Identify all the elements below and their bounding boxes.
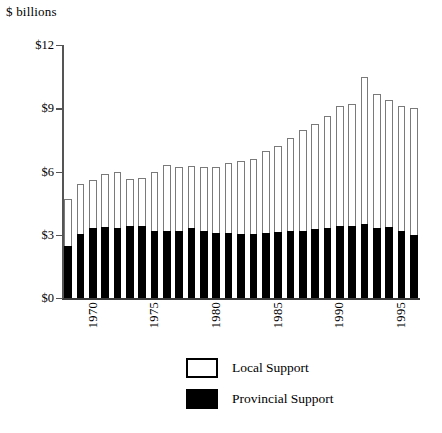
bar-1983: [237, 161, 245, 298]
bar-segment-provincial: [101, 227, 109, 298]
bar-1984: [250, 159, 258, 298]
legend-label-provincial: Provincial Support: [232, 391, 334, 407]
bar-segment-provincial: [89, 228, 97, 298]
bar-1979: [188, 166, 196, 298]
bar-1982: [225, 163, 233, 298]
bar-1995: [385, 100, 393, 298]
bar-segment-provincial: [250, 234, 258, 298]
bar-series-layer: [62, 45, 420, 298]
bar-1980: [200, 167, 208, 298]
bar-1986: [274, 146, 282, 298]
legend-item-provincial: Provincial Support: [186, 389, 334, 409]
x-tick-label-1975: 1975: [147, 302, 162, 328]
bar-segment-provincial: [398, 231, 406, 298]
legend-swatch-local-icon: [186, 358, 218, 378]
bar-1978: [175, 167, 183, 298]
bar-segment-provincial: [373, 228, 381, 298]
bar-segment-provincial: [151, 231, 159, 298]
bar-segment-provincial: [212, 233, 220, 298]
bar-1977: [163, 165, 171, 298]
bar-1991: [336, 106, 344, 298]
bar-segment-provincial: [348, 226, 356, 298]
bar-segment-provincial: [299, 231, 307, 298]
bar-segment-provincial: [311, 229, 319, 298]
bar-1997: [410, 108, 418, 298]
bar-segment-provincial: [324, 228, 332, 298]
bar-segment-provincial: [64, 246, 72, 298]
legend-item-local: Local Support: [186, 358, 309, 378]
y-tick-label: $0: [10, 291, 54, 306]
bar-segment-provincial: [287, 231, 295, 298]
bar-segment-provincial: [237, 234, 245, 298]
bar-segment-provincial: [361, 224, 369, 298]
bar-segment-provincial: [175, 231, 183, 298]
legend-label-local: Local Support: [232, 360, 309, 376]
bar-1988: [299, 130, 307, 298]
bar-1987: [287, 138, 295, 298]
x-tick-label-1980: 1980: [209, 302, 224, 328]
bar-1996: [398, 106, 406, 298]
bar-segment-provincial: [126, 226, 134, 298]
legend-swatch-provincial-icon: [186, 389, 218, 409]
x-axis-labels: 197019751980198519901995: [62, 302, 420, 352]
bar-segment-provincial: [410, 235, 418, 298]
y-tick-label: $3: [10, 227, 54, 242]
bar-segment-provincial: [188, 228, 196, 298]
bar-segment-provincial: [262, 233, 270, 298]
y-tick-label: $9: [10, 101, 54, 116]
bar-segment-provincial: [336, 226, 344, 298]
bar-segment-provincial: [200, 231, 208, 298]
bar-segment-provincial: [274, 232, 282, 298]
bar-1975: [138, 178, 146, 298]
bar-1992: [348, 104, 356, 298]
bar-1974: [126, 179, 134, 298]
bar-segment-provincial: [77, 234, 85, 298]
bar-1971: [89, 180, 97, 298]
bar-1976: [151, 172, 159, 299]
bar-segment-provincial: [163, 231, 171, 298]
bar-segment-provincial: [114, 228, 122, 298]
bar-1985: [262, 151, 270, 298]
bar-1972: [101, 174, 109, 298]
plot-area: $0$3$6$9$12: [62, 45, 420, 298]
bar-segment-provincial: [225, 233, 233, 298]
bar-segment-provincial: [138, 226, 146, 298]
bar-segment-provincial: [385, 227, 393, 298]
y-tick-label: $12: [10, 38, 54, 53]
bar-1969: [64, 199, 72, 298]
bar-1993: [361, 77, 369, 298]
bar-chart: $ billions $0$3$6$9$12 19701975198019851…: [0, 0, 442, 433]
bar-1970: [77, 184, 85, 298]
x-axis-line: [62, 298, 420, 300]
bar-1990: [324, 116, 332, 298]
y-tick-mark: [56, 298, 63, 299]
y-tick-label: $6: [10, 164, 54, 179]
bar-1989: [311, 124, 319, 298]
x-tick-label-1990: 1990: [332, 302, 347, 328]
x-tick-label-1985: 1985: [271, 302, 286, 328]
bar-1981: [212, 167, 220, 298]
bar-1973: [114, 172, 122, 299]
x-tick-label-1995: 1995: [394, 302, 409, 328]
y-axis-title: $ billions: [6, 4, 57, 20]
bar-1994: [373, 94, 381, 299]
x-tick-label-1970: 1970: [86, 302, 101, 328]
